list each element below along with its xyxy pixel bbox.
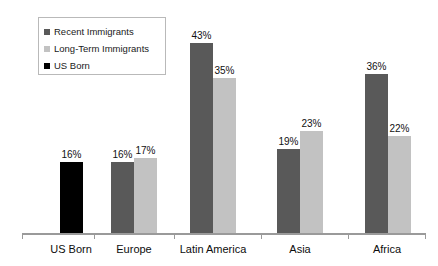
x-axis-tick — [348, 233, 349, 239]
x-axis-tick — [22, 233, 23, 239]
bar-value-label: 16% — [112, 149, 132, 160]
bar-rect — [190, 43, 213, 233]
bar-rect — [134, 158, 157, 233]
bar: 16% — [111, 162, 134, 233]
bar: 22% — [388, 136, 411, 233]
bar-rect — [213, 78, 236, 233]
x-axis-line — [22, 233, 425, 235]
x-axis-tick — [174, 233, 175, 239]
bar: 19% — [277, 149, 300, 233]
bar: 17% — [134, 158, 157, 233]
bar-rect — [365, 74, 388, 233]
bar-rect — [277, 149, 300, 233]
bar-value-label: 17% — [135, 145, 155, 156]
bar-value-label: 23% — [301, 118, 321, 129]
x-axis-tick — [261, 233, 262, 239]
x-axis-category-label: US Born — [50, 243, 92, 255]
bar-rect — [111, 162, 134, 233]
bar-rect — [300, 131, 323, 233]
x-axis-category-label: Latin America — [180, 243, 247, 255]
x-axis-category-label: Europe — [116, 243, 151, 255]
bar-value-label: 43% — [191, 30, 211, 41]
bar: 16% — [60, 162, 83, 233]
x-axis-category-label: Africa — [373, 243, 401, 255]
bar-value-label: 35% — [214, 65, 234, 76]
bar-chart: Recent Immigrants Long-Term Immigrants U… — [0, 0, 438, 266]
bar: 36% — [365, 74, 388, 233]
x-axis-tick — [94, 233, 95, 239]
bar-rect — [60, 162, 83, 233]
x-axis-tick — [425, 233, 426, 239]
bar: 43% — [190, 43, 213, 233]
bar: 23% — [300, 131, 323, 233]
bar-value-label: 36% — [366, 61, 386, 72]
bar-value-label: 22% — [389, 123, 409, 134]
bar-rect — [388, 136, 411, 233]
bar-value-label: 16% — [61, 149, 81, 160]
plot-area: 16%16%17%43%35%19%23%36%22% — [0, 0, 438, 234]
x-axis-category-label: Asia — [289, 243, 310, 255]
bar-value-label: 19% — [278, 136, 298, 147]
bar: 35% — [213, 78, 236, 233]
